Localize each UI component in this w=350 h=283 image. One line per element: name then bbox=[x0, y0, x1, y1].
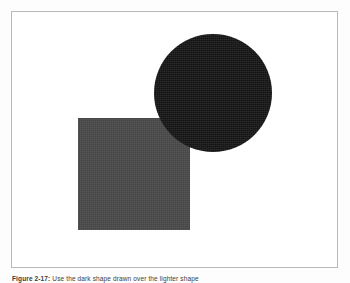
figure-caption-text: Use the dark shape drawn over the lighte… bbox=[52, 275, 198, 282]
figure-page: Figure 2-17: Use the dark shape drawn ov… bbox=[0, 0, 350, 283]
figure-panel bbox=[11, 11, 338, 268]
figure-caption-label: Figure 2-17: bbox=[12, 275, 50, 282]
figure-caption: Figure 2-17: Use the dark shape drawn ov… bbox=[12, 275, 342, 283]
dark-circle-shape bbox=[154, 34, 272, 152]
figure-canvas bbox=[12, 12, 337, 267]
